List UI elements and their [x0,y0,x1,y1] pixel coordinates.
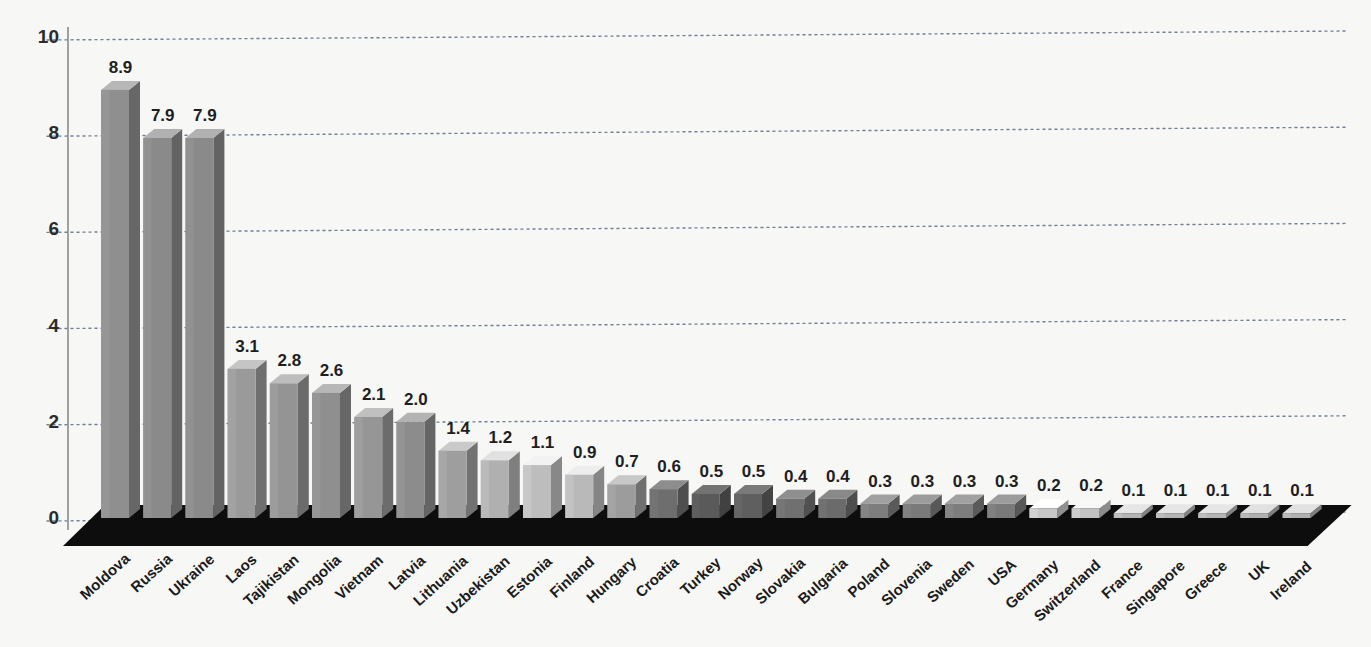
bar-finland [565,466,604,518]
value-label-estonia: 1.1 [531,433,555,452]
value-label-slovakia: 0.4 [784,467,808,486]
bar-laos [228,360,267,518]
value-label-usa: 0.3 [995,472,1019,491]
y-tick-label-8: 8 [48,122,59,143]
value-label-latvia: 2.0 [404,390,428,409]
bar-moldova [101,81,140,518]
value-label-mongolia: 2.6 [320,361,344,380]
value-label-norway: 0.5 [742,462,766,481]
bar-croatia [650,480,689,518]
value-label-sweden: 0.3 [953,472,977,491]
value-label-croatia: 0.6 [657,457,681,476]
y-tick-label-0: 0 [48,507,59,528]
y-tick-label-6: 6 [48,218,59,239]
bar-uzbekistan [481,451,520,518]
value-label-france: 0.1 [1121,481,1145,500]
value-label-turkey: 0.5 [699,462,723,481]
bar-vietnam [354,408,393,518]
y-tick-label-10: 10 [38,26,59,47]
value-label-greece: 0.1 [1206,481,1230,500]
bar-turkey [692,485,731,518]
bar-slovakia [776,490,815,518]
y-tick-label-2: 2 [48,411,59,432]
value-label-singapore: 0.1 [1164,481,1188,500]
value-label-ukraine: 7.9 [193,106,217,125]
bar-lithuania [439,442,478,518]
bar-russia [143,129,182,518]
y-tick-label-4: 4 [48,315,59,336]
bar-norway [734,485,773,518]
value-label-uk: 0.1 [1248,481,1272,500]
value-label-moldova: 8.9 [109,58,133,77]
value-label-slovenia: 0.3 [910,472,934,491]
value-label-uzbekistan: 1.2 [488,428,512,447]
value-label-hungary: 0.7 [615,452,639,471]
value-label-bulgaria: 0.4 [826,467,850,486]
value-label-laos: 3.1 [235,337,259,356]
bar-hungary [607,475,646,518]
bar-tajikistan [270,374,309,518]
chart-canvas: 0246810 8.97.97.93.12.82.62.12.01.41.21.… [0,0,1371,647]
value-label-vietnam: 2.1 [362,385,386,404]
bar-latvia [396,413,435,518]
bar-chart: 0246810 8.97.97.93.12.82.62.12.01.41.21.… [0,0,1371,647]
value-label-russia: 7.9 [151,106,175,125]
value-label-poland: 0.3 [868,472,892,491]
bar-ukraine [185,129,224,518]
value-label-germany: 0.2 [1037,476,1061,495]
value-label-switzerland: 0.2 [1079,476,1103,495]
value-label-finland: 0.9 [573,443,597,462]
value-label-tajikistan: 2.8 [277,351,301,370]
bar-estonia [523,456,562,518]
bar-mongolia [312,384,351,518]
value-label-ireland: 0.1 [1290,481,1314,500]
value-label-lithuania: 1.4 [446,419,470,438]
bar-bulgaria [818,490,857,518]
